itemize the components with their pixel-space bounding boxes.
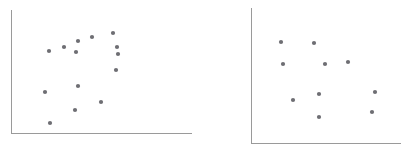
data-point — [323, 62, 327, 66]
scatter-panel-left — [0, 0, 200, 151]
data-point — [74, 50, 78, 54]
data-point — [373, 90, 377, 94]
scatter-panel-right — [200, 0, 401, 151]
data-point — [48, 121, 52, 125]
data-point — [346, 60, 350, 64]
data-point — [317, 115, 321, 119]
data-point — [317, 92, 321, 96]
data-point — [73, 108, 77, 112]
data-point — [114, 68, 118, 72]
data-point — [47, 49, 51, 53]
scatter-plot-figure — [0, 0, 401, 151]
scatter-plot-right — [200, 0, 401, 151]
data-point — [99, 100, 103, 104]
data-point — [312, 41, 316, 45]
data-point — [62, 45, 66, 49]
scatter-plot-left — [0, 0, 200, 151]
data-point — [115, 45, 119, 49]
data-point — [116, 52, 120, 56]
data-point — [43, 90, 47, 94]
data-point — [111, 31, 115, 35]
data-point — [279, 40, 283, 44]
data-point — [291, 98, 295, 102]
data-point — [281, 62, 285, 66]
data-point — [76, 84, 80, 88]
data-point — [370, 110, 374, 114]
data-point — [90, 35, 94, 39]
data-point — [76, 39, 80, 43]
